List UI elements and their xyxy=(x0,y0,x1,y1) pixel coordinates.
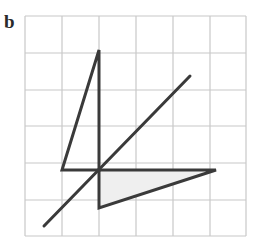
shaded-triangle xyxy=(99,170,216,208)
grid-figure xyxy=(0,0,261,245)
grid-lines xyxy=(25,16,246,236)
unshaded-triangle xyxy=(62,50,99,170)
